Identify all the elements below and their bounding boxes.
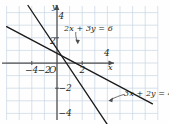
callout-arrowhead-3x2y4: [108, 98, 113, 103]
x-tick-label-4: 4: [104, 49, 110, 58]
callout-arrowhead-2x3y6: [75, 39, 80, 44]
y-tick-label-4: 4: [59, 12, 65, 21]
y-tick-label--2: −2: [59, 84, 72, 93]
coordinate-plane-svg: [0, 0, 169, 124]
x-tick-label--4: −4: [25, 66, 38, 75]
y-axis-label: y: [52, 3, 57, 11]
y-tick-label-2: 2: [50, 37, 56, 46]
x-tick-label-2: 2: [80, 66, 86, 75]
axes: [2, 5, 114, 120]
origin-label: O: [49, 66, 56, 75]
y-tick-label--4: −4: [59, 109, 72, 118]
graph-figure: −4 −2 2 4 4 2 −2 −4 O x y 2x + 3y = 6 3x…: [0, 0, 169, 124]
equation-label-3x-plus-2y-equals-4: 3x + 2y = 4: [124, 90, 169, 98]
x-axis-label: x: [108, 64, 113, 72]
equation-label-2x-plus-3y-equals-6: 2x + 3y = 6: [64, 25, 113, 33]
